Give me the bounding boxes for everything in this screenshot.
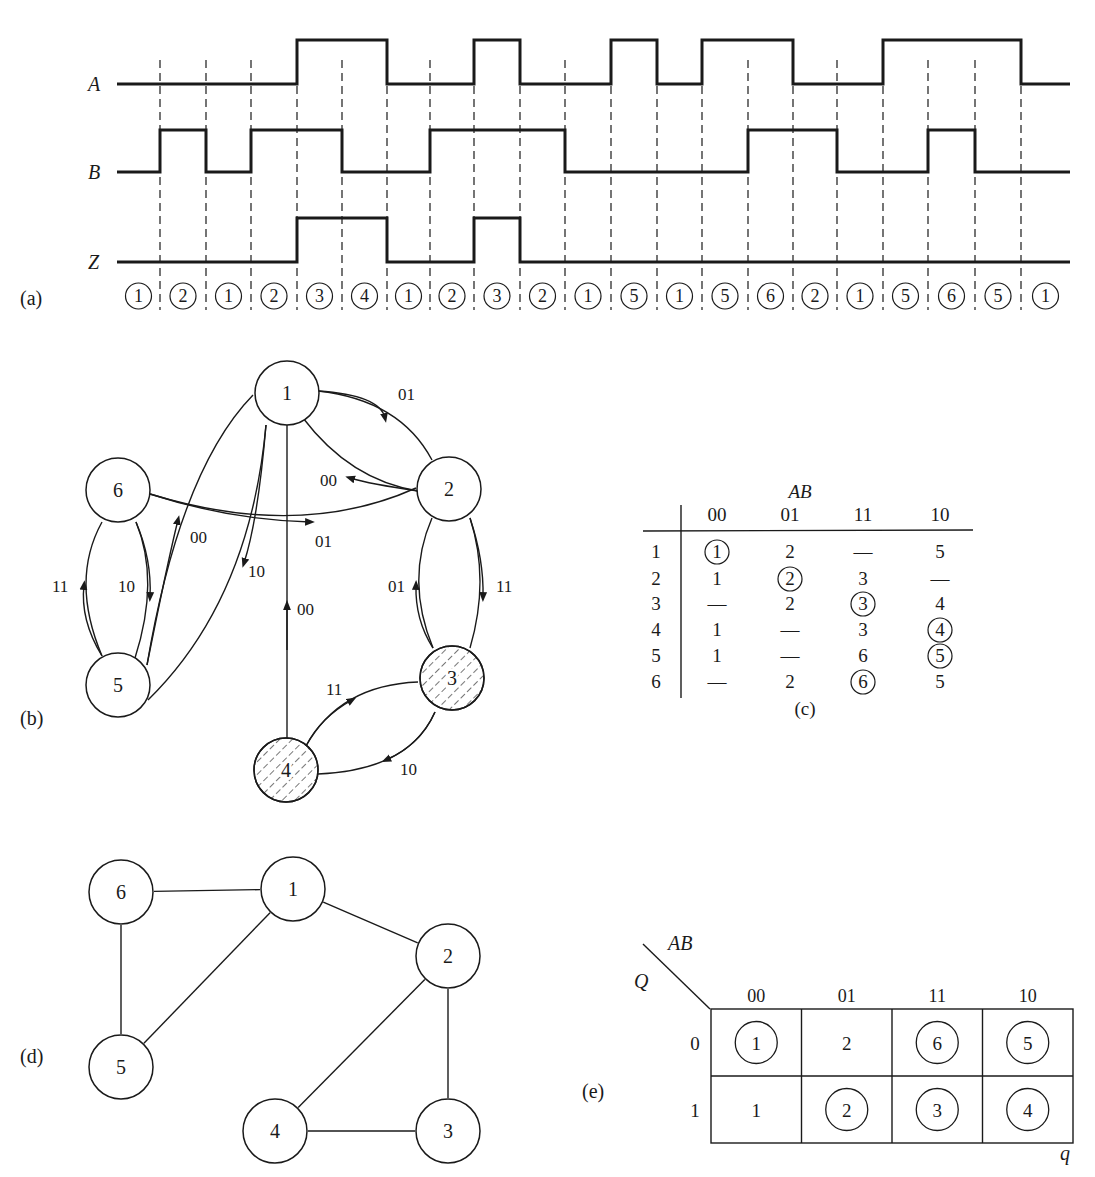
edge-label-1-5: 10 — [248, 562, 265, 581]
edge-label-1-2: 01 — [398, 385, 415, 404]
svg-text:1: 1 — [288, 878, 298, 900]
waveform-z — [117, 218, 1070, 262]
row-state-label: 3 — [651, 593, 661, 614]
state-marker: 2 — [802, 283, 828, 309]
row-state-label: 2 — [651, 568, 661, 589]
svg-text:2: 2 — [444, 478, 454, 500]
row-state-label: 1 — [651, 541, 661, 562]
signal-label-a: A — [86, 73, 101, 95]
merger-node-6: 6 — [89, 860, 153, 924]
svg-text:1: 1 — [856, 286, 865, 306]
merger-edge-2-4 — [298, 979, 425, 1107]
svg-text:1: 1 — [584, 286, 593, 306]
flow-node-6: 6 — [86, 458, 150, 522]
merger-node-5: 5 — [89, 1035, 153, 1099]
row-state-label: 5 — [651, 645, 661, 666]
state-marker: 6 — [939, 283, 965, 309]
svg-text:5: 5 — [721, 286, 730, 306]
table-cell: 1 — [712, 645, 722, 666]
svg-text:1: 1 — [1041, 286, 1050, 306]
state-marker: 1 — [847, 283, 873, 309]
table-cell: 1 — [712, 568, 722, 589]
kmap-stable-cell: 3 — [916, 1089, 958, 1131]
stable-state-cell: 1 — [712, 541, 722, 562]
state-marker: 5 — [893, 283, 919, 309]
merger-edge-1-5 — [144, 913, 270, 1044]
waveform-b — [117, 130, 1070, 172]
svg-text:2: 2 — [538, 286, 547, 306]
flow-node-1: 1 — [255, 361, 319, 425]
merger-graph: (d) 123456 — [20, 857, 480, 1163]
table-cell: 2 — [785, 541, 795, 562]
state-assignment-map: (e) AB Q q 000111100126511234 — [582, 932, 1073, 1165]
svg-text:6: 6 — [116, 881, 126, 903]
kmap-row-var: Q — [634, 970, 649, 992]
svg-text:1: 1 — [675, 286, 684, 306]
signal-label-z: Z — [88, 251, 100, 273]
kmap-row-header: 1 — [690, 1100, 700, 1121]
state-marker: 1 — [126, 283, 152, 309]
table-cell: 4 — [935, 593, 945, 614]
svg-text:3: 3 — [493, 286, 502, 306]
table-cell: 5 — [935, 541, 945, 562]
table-col-header: 00 — [708, 504, 727, 525]
edge-label-4-3: 11 — [326, 680, 342, 699]
flow-graph: (b) 123456 01 00 01 00 — [20, 361, 512, 802]
svg-text:1: 1 — [752, 1100, 762, 1121]
table-row: 112—5 — [651, 540, 945, 564]
edge-label-4-1: 00 — [297, 600, 314, 619]
table-cell: — — [780, 645, 801, 666]
kmap-stable-cell: 6 — [916, 1022, 958, 1064]
svg-text:1: 1 — [752, 1033, 762, 1054]
svg-text:2: 2 — [842, 1033, 852, 1054]
state-marker: 1 — [667, 283, 693, 309]
table-col-header: 10 — [931, 504, 950, 525]
table-cell: 3 — [858, 568, 868, 589]
merger-node-3: 3 — [416, 1099, 480, 1163]
panel-label-e: (e) — [582, 1080, 604, 1103]
edge-4-3 — [306, 682, 418, 746]
table-header-var: AB — [786, 481, 812, 502]
kmap-row-header: 0 — [690, 1033, 700, 1054]
svg-text:5: 5 — [1023, 1033, 1033, 1054]
table-cell: 2 — [785, 593, 795, 614]
table-row: 2123— — [651, 567, 950, 591]
flow-node-2: 2 — [417, 457, 481, 521]
merger-edge-6-1 — [154, 890, 260, 892]
svg-text:6: 6 — [947, 286, 956, 306]
table-cell: — — [780, 619, 801, 640]
row-state-label: 6 — [651, 671, 661, 692]
state-marker: 2 — [530, 283, 556, 309]
flow-node-4: 4 — [254, 738, 318, 802]
panel-label-b: (b) — [20, 707, 43, 730]
table-col-header: 01 — [781, 504, 800, 525]
svg-text:4: 4 — [360, 286, 369, 306]
table-row: 41—34 — [651, 618, 952, 642]
kmap-col-header: 10 — [1019, 986, 1037, 1006]
svg-text:2: 2 — [842, 1100, 852, 1121]
edge-label-3-4: 10 — [400, 760, 417, 779]
kmap-stable-cell: 2 — [826, 1089, 868, 1131]
edge-label-3-2: 01 — [388, 577, 405, 596]
state-marker: 3 — [484, 283, 510, 309]
svg-text:5: 5 — [113, 674, 123, 696]
stable-state-cell: 2 — [785, 568, 795, 589]
svg-text:2: 2 — [448, 286, 457, 306]
edge-3-4 — [318, 712, 435, 774]
kmap-col-header: 00 — [747, 986, 765, 1006]
svg-text:3: 3 — [933, 1100, 943, 1121]
row-state-label: 4 — [651, 619, 661, 640]
table-row: 6—265 — [651, 670, 945, 694]
waveform-a — [117, 40, 1070, 84]
edge-3-2 — [419, 518, 433, 648]
table-cell: 1 — [712, 619, 722, 640]
svg-text:3: 3 — [447, 667, 457, 689]
state-marker: 3 — [307, 283, 333, 309]
kmap-col-var: AB — [666, 932, 692, 954]
merger-edge-1-2 — [323, 902, 417, 943]
svg-text:1: 1 — [224, 286, 233, 306]
svg-text:5: 5 — [901, 286, 910, 306]
kmap-cell: 2 — [842, 1033, 852, 1054]
state-marker: 1 — [216, 283, 242, 309]
kmap-stable-cell: 5 — [1007, 1022, 1049, 1064]
